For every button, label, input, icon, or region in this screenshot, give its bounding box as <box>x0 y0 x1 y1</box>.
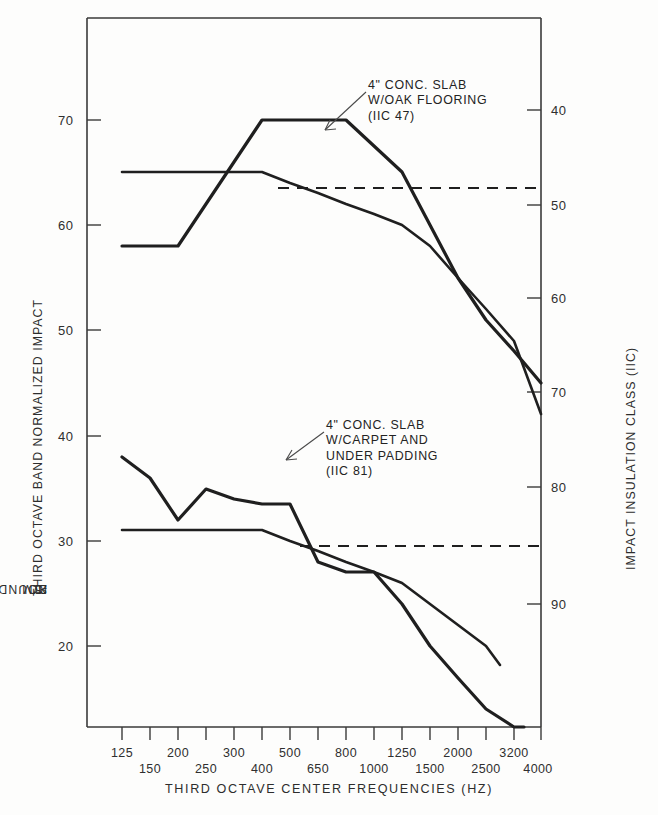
series-iic47-reference-contour <box>122 172 541 414</box>
y-tick-left-1: 60 <box>58 218 73 233</box>
y-tick-right-4: 80 <box>551 480 566 495</box>
x-tick-400: 400 <box>251 762 273 776</box>
x-tick-125: 125 <box>111 746 133 760</box>
y-tick-right-1: 50 <box>551 198 566 213</box>
y-axis-right-ticks <box>527 110 541 604</box>
y-axis-right-title-text: IMPACT INSULATION CLASS (IIC) <box>624 347 638 570</box>
x-axis-labels-lower: 150 250 400 650 1000 1500 2500 4000 <box>139 762 553 776</box>
y-axis-right-labels: 40 50 60 70 80 90 <box>551 103 566 612</box>
x-tick-650: 650 <box>307 762 329 776</box>
leader-line-oak <box>325 92 366 130</box>
x-tick-4000: 4000 <box>523 762 552 776</box>
y-tick-left-3: 40 <box>58 429 73 444</box>
x-tick-200: 200 <box>167 746 189 760</box>
y-tick-left-4: 30 <box>58 534 73 549</box>
y-axis-left-ticks <box>87 120 101 646</box>
x-tick-2500: 2500 <box>471 762 500 776</box>
y-tick-left-0: 70 <box>58 113 73 128</box>
x-tick-1250: 1250 <box>387 746 416 760</box>
x-tick-150: 150 <box>139 762 161 776</box>
series-oak-flooring-measured <box>122 120 541 383</box>
x-tick-500: 500 <box>279 746 301 760</box>
chart-svg: 70 60 50 40 30 20 40 50 60 70 80 90 <box>0 0 658 815</box>
x-tick-1000: 1000 <box>359 762 388 776</box>
chart-canvas: 70 60 50 40 30 20 40 50 60 70 80 90 <box>0 0 658 815</box>
annotation-carpet-padding: 4" CONC. SLAB W/CARPET AND UNDER PADDING… <box>326 418 438 480</box>
annotation-oak-flooring: 4" CONC. SLAB W/OAK FLOORING (IIC 47) <box>368 78 487 124</box>
y-tick-right-0: 40 <box>551 103 566 118</box>
x-tick-2000: 2000 <box>443 746 472 760</box>
y-axis-left-title-line1: THIRD OCTAVE BAND NORMALIZED IMPACT <box>31 299 45 596</box>
x-tick-800: 800 <box>335 746 357 760</box>
y-axis-left-title: THIRD OCTAVE BAND NORMALIZED IMPACT SOUN… <box>16 196 60 596</box>
x-tick-250: 250 <box>195 762 217 776</box>
x-axis-labels-upper: 125 200 300 500 800 1250 2000 3200 <box>111 746 529 760</box>
series-carpet-padding-measured <box>122 457 524 727</box>
y-tick-left-2: 50 <box>58 323 73 338</box>
x-tick-3200: 3200 <box>499 746 528 760</box>
x-tick-1500: 1500 <box>415 762 444 776</box>
y-tick-left-5: 20 <box>58 639 73 654</box>
x-axis-title: THIRD OCTAVE CENTER FREQUENCIES (HZ) <box>0 782 658 796</box>
x-axis-ticks <box>122 727 541 740</box>
y-tick-right-5: 90 <box>551 597 566 612</box>
x-tick-300: 300 <box>223 746 245 760</box>
leader-line-carpet <box>286 432 324 460</box>
y-axis-left-title-tail-exponent: 2 <box>39 582 47 596</box>
y-axis-left-labels: 70 60 50 40 30 20 <box>58 113 73 654</box>
y-axis-right-title: IMPACT INSULATION CLASS (IIC) <box>610 250 650 580</box>
y-tick-right-3: 70 <box>551 385 566 400</box>
y-tick-right-2: 60 <box>551 291 566 306</box>
